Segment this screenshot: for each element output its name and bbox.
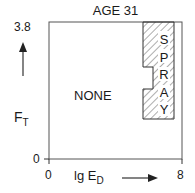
spray-letter: Y (158, 101, 170, 119)
y-min-label: 0 (33, 152, 40, 166)
spray-letter: R (158, 66, 170, 84)
x-arrow-icon (148, 174, 158, 182)
spray-letter: A (158, 84, 170, 102)
x-max-label: 8 (177, 168, 184, 182)
y-axis-label: FT (14, 109, 29, 128)
spray-letter: S (158, 31, 170, 49)
y-max-label: 3.8 (14, 20, 31, 34)
chart-title: AGE 31 (49, 3, 182, 18)
spray-letter: P (158, 49, 170, 67)
y-arrow-icon (19, 42, 27, 52)
spray-label: S P R A Y (158, 31, 170, 119)
x-axis-label: lg ED (74, 168, 104, 186)
x-min-label: 0 (45, 168, 52, 182)
none-region-label: NONE (74, 88, 112, 103)
